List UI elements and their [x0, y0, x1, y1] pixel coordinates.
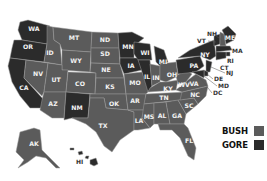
- label-OH: OH: [167, 71, 177, 78]
- state-RI[interactable]: [226, 52, 230, 56]
- label-UT: UT: [51, 76, 61, 83]
- label-NH: NH: [207, 30, 217, 37]
- legend-label-bush: BUSH: [222, 126, 250, 136]
- label-FL: FL: [185, 137, 193, 144]
- label-GA: GA: [172, 112, 182, 119]
- label-ND: ND: [100, 36, 110, 43]
- label-AZ: AZ: [48, 100, 58, 107]
- label-NM: NM: [71, 104, 82, 111]
- label-TN: TN: [159, 94, 168, 101]
- label-WA: WA: [28, 25, 40, 32]
- state-HI[interactable]: [70, 148, 98, 166]
- label-OR: OR: [23, 43, 33, 50]
- label-ID: ID: [46, 49, 53, 56]
- label-MT: MT: [69, 34, 80, 41]
- label-MI: MI: [159, 58, 167, 65]
- label-MA: MA: [232, 47, 243, 54]
- label-AK: AK: [29, 140, 39, 147]
- label-PA: PA: [190, 62, 199, 69]
- label-NV: NV: [33, 70, 43, 77]
- label-OK: OK: [109, 100, 119, 107]
- label-MN: MN: [122, 43, 133, 50]
- legend-label-gore: GORE: [222, 140, 250, 150]
- label-CA: CA: [19, 84, 29, 91]
- label-HI: HI: [76, 158, 83, 165]
- state-NJ[interactable]: [206, 60, 212, 72]
- label-TX: TX: [99, 122, 108, 129]
- label-AL: AL: [158, 112, 167, 119]
- label-DE: DE: [214, 75, 223, 82]
- label-WV: WV: [178, 81, 190, 88]
- legend-item-gore: GORE: [222, 138, 264, 152]
- label-NE: NE: [101, 66, 110, 73]
- us-election-map: WA OR CA NV ID MT WY UT AZ CO NM ND SD N…: [0, 0, 267, 181]
- label-NC: NC: [190, 91, 200, 98]
- label-NJ: NJ: [226, 69, 233, 77]
- label-LA: LA: [135, 117, 144, 124]
- label-RI: RI: [227, 57, 234, 64]
- label-CO: CO: [75, 80, 85, 87]
- state-AK[interactable]: [16, 128, 60, 168]
- label-VT: VT: [197, 37, 207, 44]
- label-DC: DC: [213, 89, 223, 96]
- label-MD: MD: [218, 82, 229, 89]
- legend-swatch-gore: [254, 140, 264, 150]
- label-SD: SD: [100, 50, 110, 57]
- label-MS: MS: [144, 113, 155, 120]
- label-WY: WY: [70, 57, 82, 64]
- leader-DE: [207, 74, 213, 79]
- state-MA[interactable]: [216, 46, 232, 52]
- label-IA: IA: [127, 62, 134, 69]
- legend-item-bush: BUSH: [222, 124, 264, 138]
- label-ME: ME: [225, 34, 235, 41]
- label-VA: VA: [189, 80, 198, 87]
- label-WI: WI: [140, 49, 149, 56]
- state-CT[interactable]: [216, 52, 226, 60]
- label-IL: IL: [144, 73, 150, 80]
- label-AR: AR: [130, 97, 140, 104]
- label-KY: KY: [163, 85, 173, 92]
- label-NY: NY: [200, 51, 210, 58]
- label-SC: SC: [185, 102, 194, 109]
- legend: BUSH GORE: [222, 124, 264, 152]
- legend-swatch-bush: [254, 126, 264, 136]
- label-IN: IN: [152, 74, 159, 81]
- label-KS: KS: [105, 83, 114, 90]
- label-MO: MO: [129, 79, 140, 86]
